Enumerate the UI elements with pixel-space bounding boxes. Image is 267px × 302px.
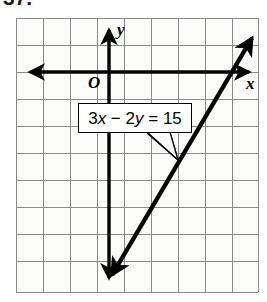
x-axis-label: x [246, 75, 255, 92]
equation-right-side: 15 [163, 109, 182, 128]
coordinate-plane-svg [0, 0, 267, 302]
equation-text: 3x − 2y = 15 [88, 110, 182, 127]
equation-coefficient-x: 3 [88, 109, 97, 128]
y-axis-label: y [117, 21, 125, 38]
grid-background [16, 18, 258, 292]
equation-variable-y: y [135, 109, 144, 128]
equation-operator: − [111, 109, 121, 128]
equation-variable-x: x [98, 109, 107, 128]
equation-callout-box: 3x − 2y = 15 [78, 103, 192, 133]
equation-coefficient-y: 2 [126, 109, 135, 128]
equation-equals-sign: = [148, 109, 158, 128]
graph-figure: 37. [0, 0, 267, 302]
origin-label: O [88, 74, 100, 91]
